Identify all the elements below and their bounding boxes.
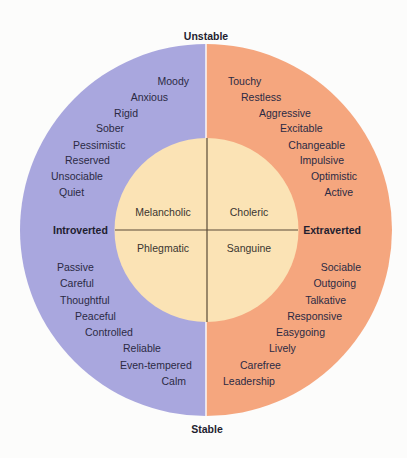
trait-easygoing: Easygoing [276, 326, 325, 338]
trait-sociable: Sociable [321, 261, 361, 273]
temperament-diagram: Unstable Stable Introverted Extraverted … [0, 0, 407, 458]
trait-carefree: Carefree [240, 359, 281, 371]
trait-optimistic: Optimistic [311, 170, 357, 182]
trait-quiet: Quiet [59, 186, 84, 198]
trait-responsive: Responsive [287, 310, 342, 322]
axis-label-stable: Stable [191, 423, 223, 435]
trait-active: Active [324, 186, 353, 198]
temperament-melancholic: Melancholic [135, 206, 190, 218]
trait-leadership: Leadership [223, 375, 275, 387]
temperament-sanguine: Sanguine [227, 242, 271, 254]
trait-lively: Lively [269, 342, 296, 354]
trait-pessimistic: Pessimistic [73, 139, 126, 151]
trait-calm: Calm [161, 375, 186, 387]
trait-anxious: Anxious [131, 91, 168, 103]
trait-aggressive: Aggressive [259, 107, 311, 119]
trait-careful: Careful [60, 277, 94, 289]
trait-even-tempered: Even-tempered [120, 359, 192, 371]
trait-outgoing: Outgoing [313, 277, 356, 289]
trait-unsociable: Unsociable [51, 170, 103, 182]
trait-rigid: Rigid [114, 107, 138, 119]
axis-label-introverted: Introverted [53, 224, 108, 236]
trait-passive: Passive [57, 261, 94, 273]
temperament-phlegmatic: Phlegmatic [137, 242, 189, 254]
trait-moody: Moody [157, 75, 189, 87]
trait-talkative: Talkative [305, 294, 346, 306]
trait-changeable: Changeable [288, 139, 345, 151]
trait-reliable: Reliable [123, 342, 161, 354]
trait-restless: Restless [241, 91, 281, 103]
trait-peaceful: Peaceful [75, 310, 116, 322]
trait-thoughtful: Thoughtful [60, 294, 110, 306]
trait-touchy: Touchy [228, 75, 261, 87]
trait-impulsive: Impulsive [300, 154, 344, 166]
temperament-choleric: Choleric [230, 206, 269, 218]
trait-controlled: Controlled [85, 326, 133, 338]
trait-reserved: Reserved [65, 154, 110, 166]
trait-excitable: Excitable [280, 122, 323, 134]
axis-label-unstable: Unstable [184, 30, 228, 42]
axis-label-extraverted: Extraverted [303, 224, 361, 236]
trait-sober: Sober [96, 122, 124, 134]
